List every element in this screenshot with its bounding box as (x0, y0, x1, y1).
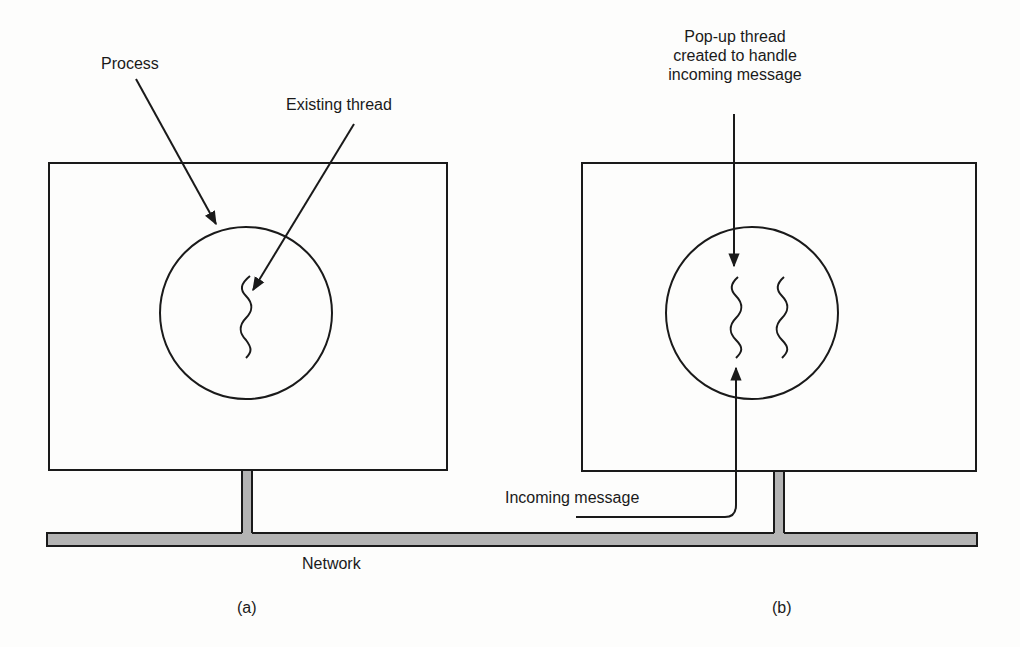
thread-squiggle-a (241, 276, 252, 358)
process-arrow (136, 79, 216, 224)
label-incoming-message: Incoming message (505, 488, 639, 507)
label-popup-thread: Pop-up thread created to handle incoming… (660, 27, 810, 84)
caption-a: (a) (237, 598, 257, 617)
existing-thread-squiggle-b (777, 277, 788, 358)
label-popup-line1: Pop-up thread (660, 27, 810, 46)
label-network: Network (302, 554, 361, 573)
process-circle-a (160, 227, 332, 399)
label-process: Process (101, 54, 159, 73)
process-circle-b (666, 227, 838, 399)
machine-box-b (582, 163, 976, 471)
popup-thread-squiggle (731, 277, 742, 358)
existing-thread-arrow (253, 124, 354, 290)
caption-b: (b) (772, 598, 792, 617)
network-bus (47, 470, 977, 546)
label-existing-thread: Existing thread (286, 95, 392, 114)
label-popup-line2: created to handle (660, 46, 810, 65)
diagram-canvas (0, 0, 1020, 647)
label-popup-line3: incoming message (660, 65, 810, 84)
